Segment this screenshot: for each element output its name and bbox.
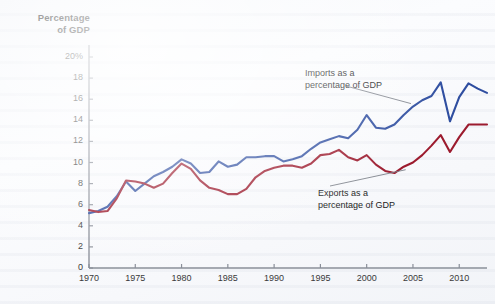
y-tick-label-16: 16 (49, 93, 83, 103)
imports-series-annotation: Imports as a percentage of GDP (305, 68, 382, 91)
y-tick-label-2: 2 (49, 241, 83, 251)
y-tick-label-8: 8 (49, 178, 83, 188)
x-tick-label-1990: 1990 (254, 273, 294, 283)
x-tick-label-2005: 2005 (393, 273, 433, 283)
y-tick-label-6: 6 (49, 199, 83, 209)
y-tick-label-4: 4 (49, 220, 83, 230)
line-chart-plot (0, 0, 495, 304)
x-tick-label-2000: 2000 (347, 273, 387, 283)
exports-series-annotation: Exports as a percentage of GDP (318, 188, 395, 211)
x-tick-label-1985: 1985 (208, 273, 248, 283)
x-tick-label-1970: 1970 (69, 273, 109, 283)
x-tick-label-1995: 1995 (300, 273, 340, 283)
chart-figure: Percentage of GDP 02468101214161820% 197… (0, 0, 495, 304)
x-tick-label-1975: 1975 (115, 273, 155, 283)
y-tick-label-20%: 20% (49, 51, 83, 61)
x-tick-label-2010: 2010 (439, 273, 479, 283)
imports-annotation-line-2: percentage of GDP (305, 80, 382, 92)
exports-annotation-line-2: percentage of GDP (318, 200, 395, 212)
y-tick-label-10: 10 (49, 157, 83, 167)
y-tick-label-12: 12 (49, 135, 83, 145)
exports-annotation-line-1: Exports as a (318, 188, 395, 200)
exports-series-line (89, 125, 487, 213)
y-tick-label-18: 18 (49, 72, 83, 82)
y-tick-label-0: 0 (49, 262, 83, 272)
imports-annotation-line-1: Imports as a (305, 68, 382, 80)
imports-series-line (89, 82, 487, 213)
y-tick-label-14: 14 (49, 114, 83, 124)
x-tick-label-1980: 1980 (162, 273, 202, 283)
exports-annotation-leader-line (330, 170, 406, 186)
